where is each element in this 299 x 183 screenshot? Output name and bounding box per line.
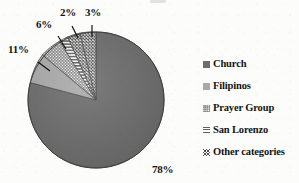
legend-label-filipinos: Filipinos — [213, 81, 251, 92]
legend-swatch-filipinos-icon — [203, 83, 210, 90]
legend-swatch-prayer-group-icon — [203, 105, 210, 112]
legend-label-san-lorenzo: San Lorenzo — [213, 125, 268, 136]
legend-swatch-san-lorenzo-icon — [203, 127, 210, 134]
slice-label-san-lorenzo: 2% — [60, 6, 76, 18]
legend-swatch-other-categories-icon — [203, 149, 210, 156]
slice-label-other-categories: 3% — [85, 6, 101, 18]
pie-chart-figure: 11% 6% 2% 3% 78% Church Filipinos Prayer… — [0, 0, 299, 183]
legend-item-church: Church — [203, 54, 298, 74]
legend-item-filipinos: Filipinos — [203, 76, 298, 96]
slice-label-filipinos: 11% — [8, 43, 29, 55]
legend-item-other-categories: Other categories — [203, 142, 298, 162]
pie-outline — [28, 32, 164, 168]
legend-swatch-church-icon — [203, 61, 210, 68]
chart-legend: Church Filipinos Prayer Group San Lorenz… — [203, 54, 298, 164]
legend-item-san-lorenzo: San Lorenzo — [203, 120, 298, 140]
legend-item-prayer-group: Prayer Group — [203, 98, 298, 118]
slice-label-prayer-group: 6% — [36, 18, 52, 30]
slice-label-church: 78% — [152, 163, 173, 175]
legend-label-church: Church — [213, 59, 246, 70]
legend-label-other-categories: Other categories — [213, 147, 285, 158]
legend-label-prayer-group: Prayer Group — [213, 103, 274, 114]
